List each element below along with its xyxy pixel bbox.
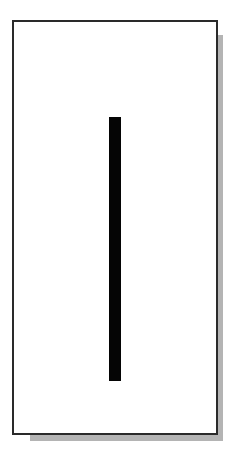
vertical-bar xyxy=(109,117,121,381)
